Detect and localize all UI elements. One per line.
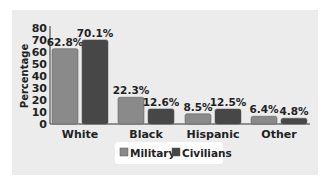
bar-value-label: 12.5% bbox=[210, 96, 247, 108]
y-tick-label: 10 bbox=[32, 106, 48, 119]
x-tick-label: Black bbox=[129, 128, 163, 141]
bar-military-other bbox=[251, 116, 277, 124]
y-tick-label: 30 bbox=[32, 82, 48, 95]
bar-civilians-hispanic bbox=[215, 109, 241, 124]
x-tick-label: Other bbox=[261, 128, 297, 141]
bar-military-hispanic bbox=[185, 114, 211, 124]
bar-value-label: 22.3% bbox=[113, 84, 150, 96]
legend-swatch-military bbox=[120, 148, 128, 156]
bar-civilians-other bbox=[281, 118, 307, 124]
legend-label-civilians: Civilians bbox=[182, 147, 232, 159]
x-tick-label: White bbox=[62, 128, 98, 141]
bar-value-label: 70.1% bbox=[77, 27, 114, 39]
y-tick-label: 60 bbox=[32, 46, 48, 59]
x-tick-label: Hispanic bbox=[187, 128, 240, 141]
y-tick-label: 70 bbox=[32, 34, 48, 47]
bar-chart: 01020304050607080Percentage62.8%70.1%Whi… bbox=[0, 0, 331, 183]
legend-swatch-civilians bbox=[172, 148, 180, 156]
bar-military-black bbox=[118, 97, 144, 124]
bar-civilians-black bbox=[148, 109, 174, 124]
y-tick-label: 20 bbox=[32, 94, 48, 107]
y-tick-label: 80 bbox=[32, 22, 48, 35]
y-tick-label: 40 bbox=[32, 70, 48, 83]
bar-value-label: 12.6% bbox=[143, 96, 180, 108]
bar-civilians-white bbox=[82, 40, 108, 124]
bar-value-label: 4.8% bbox=[279, 105, 309, 117]
legend-label-military: Military bbox=[130, 147, 176, 159]
y-tick-label: 50 bbox=[32, 58, 48, 71]
bar-value-label: 8.5% bbox=[183, 101, 213, 113]
bar-value-label: 6.4% bbox=[249, 103, 279, 115]
bar-military-white bbox=[52, 49, 78, 124]
y-tick-label: 0 bbox=[39, 118, 47, 131]
y-axis-label: Percentage bbox=[19, 44, 30, 109]
